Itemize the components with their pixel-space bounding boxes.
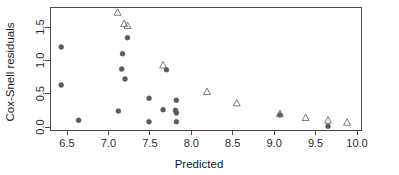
- x-tick-label: 6.5: [59, 137, 74, 149]
- x-tick-label: 9.0: [266, 137, 281, 149]
- y-tick-label: 1.0: [34, 53, 46, 68]
- data-point-circle: [120, 51, 125, 56]
- data-point-triangle: [124, 22, 131, 28]
- data-point-circle: [326, 124, 331, 129]
- plot-panel-border: [50, 7, 361, 130]
- data-point-circle: [147, 119, 152, 124]
- y-tick-label: 0.0: [34, 119, 46, 134]
- data-point-circle: [174, 98, 179, 103]
- x-axis: 6.57.07.58.08.59.09.510.0: [59, 130, 367, 149]
- data-points-layer: [59, 9, 351, 129]
- x-tick-label: 7.5: [142, 137, 157, 149]
- data-point-triangle: [344, 119, 351, 125]
- x-tick-label: 9.5: [308, 137, 323, 149]
- data-point-triangle: [325, 117, 332, 123]
- x-tick-label: 8.0: [184, 137, 199, 149]
- data-point-triangle: [204, 88, 211, 94]
- x-tick-label: 7.0: [101, 137, 116, 149]
- data-point-circle: [123, 77, 128, 82]
- x-axis-title: Predicted: [175, 158, 224, 170]
- data-point-circle: [147, 96, 152, 101]
- plot-canvas: 6.57.07.58.08.59.09.510.0 0.00.51.01.5 P…: [0, 0, 399, 175]
- y-tick-label: 0.5: [34, 86, 46, 101]
- x-tick-label: 10.0: [346, 137, 367, 149]
- data-point-circle: [76, 118, 81, 123]
- data-point-triangle: [233, 99, 240, 105]
- data-point-triangle: [114, 9, 121, 15]
- y-axis: 0.00.51.01.5: [34, 19, 50, 134]
- data-point-circle: [161, 107, 166, 112]
- data-point-circle: [174, 111, 179, 116]
- data-point-circle: [125, 35, 130, 40]
- x-tick-label: 8.5: [225, 137, 240, 149]
- data-point-circle: [59, 83, 64, 88]
- data-point-triangle: [302, 114, 309, 120]
- cox-snell-residual-scatter-plot: 6.57.07.58.08.59.09.510.0 0.00.51.01.5 P…: [0, 0, 399, 175]
- y-axis-title: Cox-Snell residuals: [4, 22, 16, 121]
- data-point-circle: [116, 109, 121, 114]
- y-tick-label: 1.5: [34, 19, 46, 34]
- data-point-circle: [174, 119, 179, 124]
- data-point-triangle: [160, 61, 167, 67]
- data-point-circle: [119, 67, 124, 72]
- data-point-circle: [59, 45, 64, 50]
